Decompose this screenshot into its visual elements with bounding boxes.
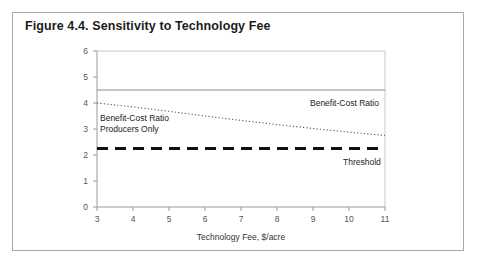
x-tick-label-7: 7 (239, 214, 244, 224)
x-tick-label-3: 3 (95, 214, 100, 224)
y-tick-label-6: 6 (83, 46, 88, 56)
chart-plot-area: 0 1 2 3 4 5 6 3 (0, 0, 482, 269)
x-axis-ticks (97, 207, 385, 211)
y-tick-label-1: 1 (83, 176, 88, 186)
y-tick-label-5: 5 (83, 72, 88, 82)
y-tick-label-2: 2 (83, 150, 88, 160)
annotation-benefit-cost-ratio: Benefit-Cost Ratio (310, 98, 379, 108)
y-axis-tick-labels: 0 1 2 3 4 5 6 (83, 46, 88, 212)
annotation-producers-only-line2: Producers Only (100, 124, 159, 134)
y-tick-label-3: 3 (83, 124, 88, 134)
x-axis-title: Technology Fee, $/acre (197, 232, 286, 242)
x-tick-label-5: 5 (167, 214, 172, 224)
y-tick-label-0: 0 (83, 202, 88, 212)
x-tick-label-4: 4 (131, 214, 136, 224)
y-axis-ticks (93, 51, 97, 207)
x-tick-label-10: 10 (344, 214, 354, 224)
x-axis-tick-labels: 3 4 5 6 7 8 9 10 11 (95, 214, 390, 224)
annotation-producers-only-line1: Benefit-Cost Ratio (100, 113, 169, 123)
x-tick-label-9: 9 (311, 214, 316, 224)
x-tick-label-11: 11 (381, 214, 390, 224)
annotation-threshold: Threshold (343, 157, 381, 167)
figure-root: Figure 4.4. Sensitivity to Technology Fe… (0, 0, 482, 269)
x-tick-label-6: 6 (203, 214, 208, 224)
chart-svg: 0 1 2 3 4 5 6 3 (0, 0, 482, 269)
x-tick-label-8: 8 (275, 214, 280, 224)
y-tick-label-4: 4 (83, 98, 88, 108)
